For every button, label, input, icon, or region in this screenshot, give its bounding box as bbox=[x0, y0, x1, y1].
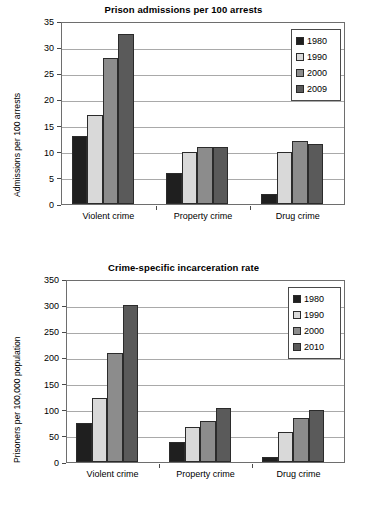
y-tick-mark bbox=[62, 436, 66, 437]
chart-1-legend: 1980199020002009 bbox=[291, 29, 341, 101]
bar bbox=[107, 353, 123, 462]
y-tick-mark bbox=[62, 280, 66, 281]
bar bbox=[72, 136, 88, 204]
chart-incarceration-rate: Crime-specific incarceration rate Prison… bbox=[0, 258, 367, 505]
y-tick-label: 100 bbox=[0, 406, 59, 416]
y-tick-label: 15 bbox=[0, 122, 54, 132]
bar bbox=[166, 173, 182, 204]
legend-item[interactable]: 2000 bbox=[296, 65, 336, 81]
bar bbox=[308, 144, 324, 204]
x-tick-mark bbox=[159, 464, 160, 468]
y-tick-mark bbox=[57, 178, 61, 179]
x-axis-category-label: Violent crime bbox=[66, 469, 159, 479]
legend-label: 1990 bbox=[304, 311, 324, 320]
y-tick-mark bbox=[57, 126, 61, 127]
y-tick-label: 20 bbox=[0, 95, 54, 105]
legend-swatch-icon bbox=[293, 311, 301, 319]
bar bbox=[118, 34, 134, 204]
legend-item[interactable]: 1990 bbox=[296, 49, 336, 65]
chart-2-legend: 1980199020002010 bbox=[288, 287, 341, 359]
legend-item[interactable]: 1990 bbox=[293, 307, 336, 323]
bar bbox=[278, 432, 294, 462]
chart-2-title: Crime-specific incarceration rate bbox=[0, 262, 367, 273]
chart-1-title: Prison admissions per 100 arrests bbox=[0, 4, 367, 15]
x-tick-mark bbox=[156, 206, 157, 210]
legend-item[interactable]: 2000 bbox=[293, 323, 336, 339]
legend-swatch-icon bbox=[296, 69, 304, 77]
bar bbox=[185, 427, 201, 462]
legend-item[interactable]: 2009 bbox=[296, 81, 336, 97]
y-tick-mark bbox=[57, 152, 61, 153]
legend-label: 2010 bbox=[304, 343, 324, 352]
legend-label: 2000 bbox=[304, 327, 324, 336]
y-tick-mark bbox=[62, 332, 66, 333]
y-tick-mark bbox=[57, 48, 61, 49]
x-axis-category-label: Drug crime bbox=[252, 469, 345, 479]
y-tick-mark bbox=[57, 74, 61, 75]
bar bbox=[292, 141, 308, 204]
y-tick-mark bbox=[57, 100, 61, 101]
y-tick-label: 50 bbox=[0, 432, 59, 442]
bar bbox=[123, 305, 139, 462]
x-axis-category-label: Property crime bbox=[159, 469, 252, 479]
chart-prison-admissions: Prison admissions per 100 arrests Admiss… bbox=[0, 0, 367, 245]
bar bbox=[216, 408, 232, 462]
y-tick-label: 5 bbox=[0, 174, 54, 184]
bar bbox=[76, 423, 92, 462]
y-tick-mark bbox=[62, 410, 66, 411]
legend-label: 2009 bbox=[307, 85, 327, 94]
legend-swatch-icon bbox=[293, 327, 301, 335]
legend-label: 1980 bbox=[307, 37, 327, 46]
bar bbox=[200, 421, 216, 462]
bar bbox=[213, 147, 229, 205]
bar bbox=[261, 194, 277, 204]
bar bbox=[92, 398, 108, 462]
legend-item[interactable]: 2010 bbox=[293, 339, 336, 355]
y-tick-label: 25 bbox=[0, 69, 54, 79]
y-tick-label: 10 bbox=[0, 148, 54, 158]
y-tick-mark bbox=[62, 463, 66, 464]
legend-swatch-icon bbox=[296, 85, 304, 93]
y-tick-mark bbox=[62, 384, 66, 385]
y-tick-label: 300 bbox=[0, 301, 59, 311]
bar bbox=[277, 152, 293, 204]
bar bbox=[293, 418, 309, 462]
legend-swatch-icon bbox=[296, 37, 304, 45]
y-tick-label: 30 bbox=[0, 43, 54, 53]
y-tick-label: 350 bbox=[0, 275, 59, 285]
y-tick-label: 0 bbox=[0, 458, 59, 468]
x-axis-category-label: Drug crime bbox=[250, 211, 345, 221]
bar bbox=[197, 147, 213, 205]
y-tick-mark bbox=[57, 205, 61, 206]
legend-label: 1980 bbox=[304, 295, 324, 304]
legend-swatch-icon bbox=[293, 295, 301, 303]
bar bbox=[103, 58, 119, 204]
legend-swatch-icon bbox=[296, 53, 304, 61]
legend-item[interactable]: 1980 bbox=[296, 33, 336, 49]
legend-label: 2000 bbox=[307, 69, 327, 78]
y-tick-mark bbox=[62, 358, 66, 359]
legend-swatch-icon bbox=[293, 343, 301, 351]
y-tick-label: 200 bbox=[0, 353, 59, 363]
y-tick-mark bbox=[62, 306, 66, 307]
y-tick-mark bbox=[57, 22, 61, 23]
y-tick-label: 35 bbox=[0, 17, 54, 27]
bar bbox=[87, 115, 103, 204]
bar bbox=[169, 442, 185, 462]
y-tick-label: 0 bbox=[0, 200, 54, 210]
x-tick-mark bbox=[250, 206, 251, 210]
y-tick-label: 250 bbox=[0, 327, 59, 337]
bar bbox=[309, 410, 325, 462]
x-axis-category-label: Violent crime bbox=[61, 211, 156, 221]
legend-label: 1990 bbox=[307, 53, 327, 62]
y-tick-label: 150 bbox=[0, 380, 59, 390]
bar bbox=[262, 457, 278, 462]
bar bbox=[182, 152, 198, 204]
x-tick-mark bbox=[252, 464, 253, 468]
legend-item[interactable]: 1980 bbox=[293, 291, 336, 307]
x-axis-category-label: Property crime bbox=[156, 211, 251, 221]
